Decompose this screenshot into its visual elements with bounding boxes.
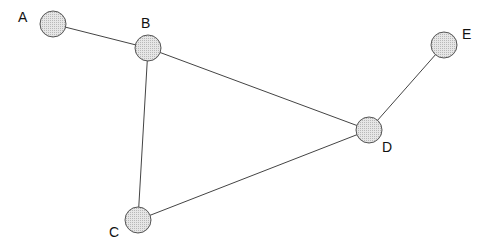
- edge-b-d: [148, 48, 369, 130]
- node-circle: [40, 11, 66, 37]
- node-label: E: [462, 26, 471, 42]
- node-circle: [125, 207, 151, 233]
- node-a: A: [18, 9, 66, 37]
- graph-svg: ABCDE: [0, 0, 487, 248]
- node-label: A: [18, 9, 28, 25]
- edge-d-e: [369, 45, 444, 130]
- edge-c-d: [138, 130, 369, 220]
- edges: [53, 24, 444, 220]
- node-label: B: [141, 15, 150, 31]
- node-circle: [356, 117, 382, 143]
- node-circle: [135, 35, 161, 61]
- node-e: E: [431, 26, 471, 58]
- edge-a-b: [53, 24, 148, 48]
- node-label: C: [109, 224, 119, 240]
- node-b: B: [135, 15, 161, 61]
- edge-b-c: [138, 48, 148, 220]
- node-c: C: [109, 207, 151, 240]
- node-circle: [431, 32, 457, 58]
- graph-diagram: ABCDE: [0, 0, 487, 248]
- node-d: D: [356, 117, 392, 155]
- nodes: ABCDE: [18, 9, 471, 240]
- node-label: D: [382, 139, 392, 155]
